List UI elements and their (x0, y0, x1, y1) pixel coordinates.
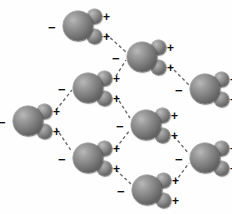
partial-positive-charge-label-lower: + (230, 94, 232, 106)
partial-positive-charge-label-upper: + (230, 74, 232, 86)
partial-positive-charge-label-lower: + (103, 31, 110, 43)
hydrogen-bonding-diagram: −++−++−++−++−++−++−++−++−++ (0, 0, 232, 214)
partial-negative-charge-label: − (58, 83, 66, 96)
partial-positive-charge-label-upper: + (103, 11, 110, 23)
partial-positive-charge-label-upper: + (171, 110, 178, 122)
oxygen-atom (13, 106, 43, 136)
partial-positive-charge-label-lower: + (167, 62, 174, 74)
oxygen-atom (190, 74, 220, 104)
oxygen-atom (132, 175, 162, 205)
oxygen-atom (63, 11, 93, 41)
partial-positive-charge-label-lower: + (53, 126, 60, 138)
partial-negative-charge-label: − (0, 116, 6, 129)
partial-positive-charge-label-upper: + (113, 143, 120, 155)
partial-negative-charge-label: − (117, 185, 125, 198)
oxygen-atom (190, 143, 220, 173)
partial-negative-charge-label: − (48, 21, 56, 34)
partial-positive-charge-label-lower: + (172, 195, 179, 207)
partial-positive-charge-label-upper: + (113, 73, 120, 85)
partial-positive-charge-label-upper: + (53, 106, 60, 118)
partial-positive-charge-label-lower: + (113, 93, 120, 105)
partial-negative-charge-label: − (116, 120, 124, 133)
partial-negative-charge-label: − (58, 153, 66, 166)
partial-positive-charge-label-lower: + (113, 163, 120, 175)
oxygen-atom (131, 110, 161, 140)
partial-negative-charge-label: − (175, 153, 183, 166)
partial-negative-charge-label: − (112, 52, 120, 65)
partial-positive-charge-label-upper: + (230, 143, 232, 155)
partial-positive-charge-label-upper: + (172, 175, 179, 187)
partial-negative-charge-label: − (175, 84, 183, 97)
oxygen-atom (73, 73, 103, 103)
partial-positive-charge-label-upper: + (167, 42, 174, 54)
partial-positive-charge-label-lower: + (230, 163, 232, 175)
oxygen-atom (73, 143, 103, 173)
partial-positive-charge-label-lower: + (171, 130, 178, 142)
oxygen-atom (127, 42, 157, 72)
